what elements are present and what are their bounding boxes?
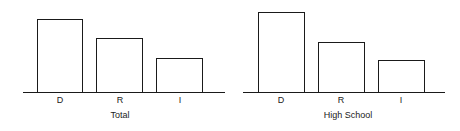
- bar-high-school-i: [378, 60, 425, 92]
- x-tick-label-high-school-r: R: [321, 95, 361, 106]
- x-tick-label-high-school-i: I: [381, 95, 421, 106]
- bar-total-d: [37, 19, 83, 92]
- bar-chart-figure: D R I Total D R I High School: [0, 0, 460, 131]
- x-tick-label-high-school-d: D: [261, 95, 301, 106]
- bar-total-r: [96, 38, 143, 92]
- baseline-axis-total: [23, 92, 225, 93]
- baseline-axis-high-school: [243, 92, 445, 93]
- panel-caption-high-school: High School: [298, 110, 398, 121]
- bar-high-school-d: [258, 12, 305, 92]
- x-tick-label-total-d: D: [40, 95, 80, 106]
- bar-total-i: [156, 58, 203, 92]
- panel-caption-total: Total: [70, 110, 170, 121]
- x-tick-label-total-r: R: [100, 95, 140, 106]
- bar-high-school-r: [318, 42, 365, 92]
- x-tick-label-total-i: I: [160, 95, 200, 106]
